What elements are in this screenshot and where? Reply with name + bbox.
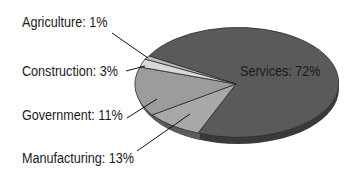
label-manufacturing: Manufacturing: 13% [22, 150, 134, 166]
label-government: Government: 11% [22, 107, 123, 123]
label-construction: Construction: 3% [22, 63, 118, 79]
label-agriculture: Agriculture: 1% [22, 14, 107, 30]
label-services: Services: 72% [240, 63, 321, 79]
